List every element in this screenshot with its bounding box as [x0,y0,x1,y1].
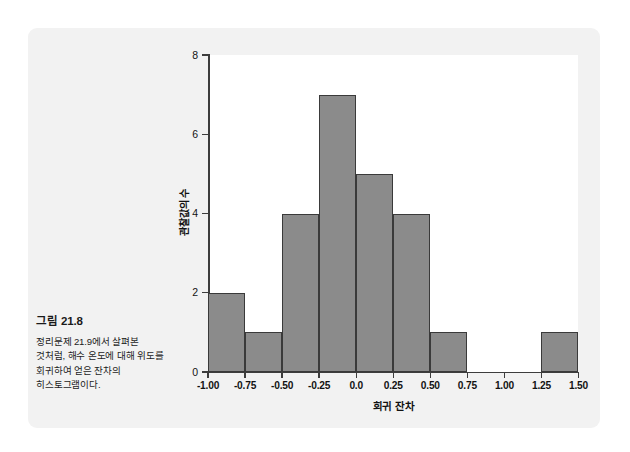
x-tick-mark [207,372,208,378]
y-tick-label: 6 [158,129,198,140]
y-tick-mark [202,134,208,135]
histogram-bar [541,332,578,372]
x-tick-mark [578,372,579,378]
x-tick-mark [244,372,245,378]
histogram-bar [282,214,319,373]
histogram-chart: 02468 -1.00-0.75-0.50-0.250.00.250.500.7… [0,0,630,452]
x-tick-mark [430,372,431,378]
x-tick-mark [467,372,468,378]
x-tick-mark [318,372,319,378]
y-tick-mark [202,213,208,214]
y-tick-label: 2 [158,287,198,298]
histogram-bar [356,174,393,372]
x-tick-mark [541,372,542,378]
histogram-bar [245,332,282,372]
y-tick-label: 0 [158,367,198,378]
histogram-bar [430,332,467,372]
y-tick-mark [202,292,208,293]
x-tick-mark [356,372,357,378]
y-tick-label: 8 [158,50,198,61]
x-tick-mark [504,372,505,378]
y-tick-mark [202,54,208,55]
y-axis-title: 관찰값의 수 [176,158,191,268]
histogram-bar [319,95,356,372]
histogram-bar [208,293,245,372]
x-tick-mark [393,372,394,378]
x-tick-label: 1.50 [554,380,604,391]
histogram-bar [393,214,430,373]
x-tick-mark [281,372,282,378]
x-axis-title: 회귀 잔차 [208,398,579,413]
